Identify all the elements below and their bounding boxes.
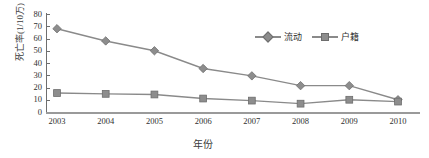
square-marker-icon	[151, 91, 158, 98]
diamond-marker-icon	[53, 25, 61, 33]
diamond-marker-icon	[102, 37, 110, 45]
square-marker-icon	[200, 95, 207, 102]
diamond-marker-icon	[199, 64, 207, 72]
square-marker-icon	[102, 90, 109, 97]
diamond-marker-icon	[262, 31, 273, 42]
legend-swatch-diamond	[255, 36, 281, 38]
legend-item-huji[interactable]: 户籍	[312, 30, 359, 43]
series-layer	[0, 0, 429, 158]
chart-legend: 流动 户籍	[255, 30, 359, 43]
diamond-marker-icon	[150, 47, 158, 55]
diamond-marker-icon	[345, 81, 353, 89]
square-marker-icon	[346, 96, 353, 103]
legend-label-huji: 户籍	[341, 30, 359, 43]
legend-swatch-square	[312, 36, 338, 38]
legend-item-liudong[interactable]: 流动	[255, 30, 302, 43]
series-huji	[54, 90, 402, 107]
square-marker-icon	[297, 100, 304, 107]
square-marker-icon	[54, 90, 61, 97]
diamond-marker-icon	[296, 81, 304, 89]
chart-container: 死亡率(1/10万) 01020304050607080 20032004200…	[0, 0, 429, 158]
square-marker-icon	[321, 33, 329, 41]
legend-label-liudong: 流动	[284, 30, 302, 43]
square-marker-icon	[395, 98, 402, 105]
square-marker-icon	[248, 97, 255, 104]
diamond-marker-icon	[248, 72, 256, 80]
